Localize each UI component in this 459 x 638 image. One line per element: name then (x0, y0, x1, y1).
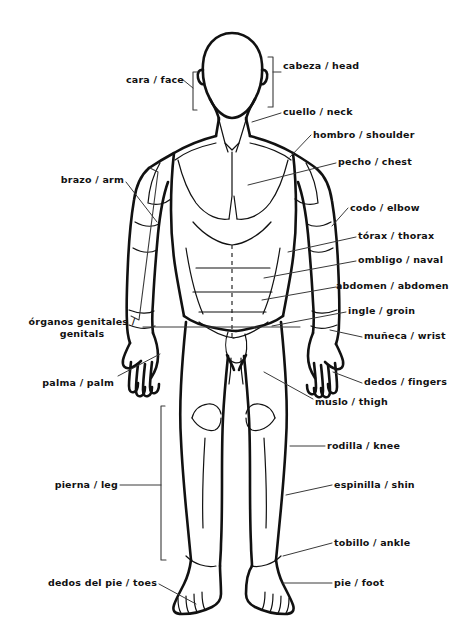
label-rodilla: rodilla / knee (327, 440, 400, 452)
label-codo: codo / elbow (350, 202, 420, 214)
label-dedos: dedos / fingers (364, 376, 447, 388)
anatomy-diagram-page: cabeza / head cuello / neck hombro / sho… (0, 0, 459, 638)
label-muneca: muñeca / wrist (364, 330, 446, 342)
label-torax: tórax / thorax (358, 230, 434, 242)
label-pie: pie / foot (334, 577, 384, 589)
leader-tobillo (283, 543, 332, 556)
label-pierna: pierna / leg (38, 479, 118, 491)
body-outline (123, 33, 343, 614)
label-dedos-del-pie: dedos del pie / toes (33, 577, 157, 589)
leader-espinilla (286, 485, 332, 495)
leader-abdomen (262, 287, 336, 300)
label-tobillo: tobillo / ankle (334, 537, 410, 549)
face-bracket (193, 72, 197, 110)
leader-cuello (252, 113, 281, 122)
label-cuello: cuello / neck (283, 106, 353, 118)
leader-torax (288, 237, 356, 252)
label-organos-genitales-line2: genitals (22, 328, 142, 340)
label-ingle: ingle / groin (348, 305, 415, 317)
label-ombligo: ombligo / naval (358, 254, 443, 266)
label-pecho: pecho / chest (338, 156, 412, 168)
label-brazo: brazo / arm (48, 174, 124, 186)
label-cabeza: cabeza / head (283, 60, 359, 72)
label-organos-genitales-line1: órganos genitales / (22, 316, 142, 328)
label-organos-genitales: órganos genitales / genitals (22, 316, 142, 340)
head-bracket (268, 57, 273, 107)
label-palma: palma / palm (28, 377, 114, 389)
label-muslo: muslo / thigh (315, 396, 388, 408)
leader-muslo (264, 372, 313, 399)
leg-bracket (161, 406, 166, 560)
leader-hombro (290, 135, 311, 157)
label-hombro: hombro / shoulder (313, 129, 415, 141)
label-cara: cara / face (104, 74, 184, 86)
label-espinilla: espinilla / shin (334, 479, 415, 491)
label-abdomen: abdomen / abdomen (336, 280, 449, 292)
leader-muneca (330, 330, 362, 337)
